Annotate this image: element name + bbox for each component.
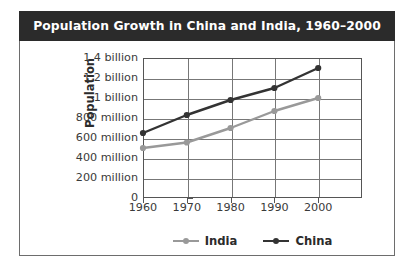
data-point-india-1970 [184,139,190,145]
x-tick-mark [274,198,275,203]
y-tick-mark [187,198,193,199]
y-tick-label: 600 million [52,132,138,143]
y-tick-label: 1 billion [52,92,138,103]
legend-marker-icon [183,238,189,244]
data-point-china-1990 [271,85,277,91]
data-point-china-2000 [315,65,321,71]
y-axis-tick-labels: 0200 million400 million600 million800 mi… [50,0,138,276]
x-tick-mark [231,198,232,203]
y-tick-label: 1.4 billion [52,52,138,63]
legend-label: China [295,234,332,248]
data-point-india-1990 [271,108,277,114]
x-tick-mark [187,198,188,203]
legend-swatch-china [263,236,289,246]
x-tick-mark [318,198,319,203]
y-tick-label: 800 million [52,112,138,123]
legend-swatch-india [173,236,199,246]
x-tick-mark [143,198,144,203]
legend-label: India [205,234,238,248]
data-point-china-1980 [228,97,234,103]
series-layer [143,58,362,198]
chart-figure: Population Growth in China and India, 19… [0,0,413,276]
legend-item-china[interactable]: China [263,234,332,248]
chart-legend: IndiaChina [143,231,362,251]
y-tick-label: 400 million [52,152,138,163]
data-point-india-1960 [140,145,146,151]
legend-marker-icon [273,238,279,244]
data-point-india-2000 [315,95,321,101]
data-point-india-1980 [228,125,234,131]
y-tick-label: 1.2 billion [52,72,138,83]
data-point-china-1970 [184,112,190,118]
y-tick-label: 200 million [52,172,138,183]
data-point-china-1960 [140,130,146,136]
legend-item-india[interactable]: India [173,234,238,248]
